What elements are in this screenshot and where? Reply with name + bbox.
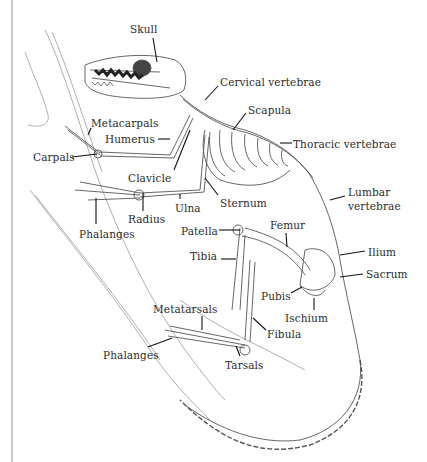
label-ischium: Ischium — [285, 312, 328, 324]
label-carpals: Carpals — [33, 151, 75, 163]
label-femur: Femur — [270, 219, 305, 231]
label-clavicle: Clavicle — [128, 172, 171, 184]
label-pubis: Pubis — [261, 290, 291, 302]
label-phalanges-fore: Phalanges — [79, 228, 135, 240]
label-skull: Skull — [130, 23, 158, 35]
label-ilium: Ilium — [368, 246, 396, 258]
label-scapula: Scapula — [248, 104, 291, 116]
label-metacarpals: Metacarpals — [91, 117, 158, 129]
label-patella: Patella — [181, 225, 218, 237]
label-radius: Radius — [128, 213, 165, 225]
label-sternum: Sternum — [220, 197, 267, 209]
label-humerus: Humerus — [105, 133, 155, 145]
label-fibula: Fibula — [267, 328, 301, 340]
label-ulna: Ulna — [175, 202, 201, 214]
label-tarsals: Tarsals — [225, 359, 264, 371]
skeleton-diagram: Skull Cervical vertebrae Scapula Thoraci… — [0, 0, 427, 462]
skull-drawing — [85, 55, 186, 98]
hindlimb-drawing — [165, 225, 335, 355]
label-metatarsals: Metatarsals — [153, 303, 217, 315]
label-sacrum: Sacrum — [366, 268, 408, 280]
label-thoracic-vertebrae: Thoracic vertebrae — [293, 138, 396, 150]
label-tibia: Tibia — [190, 250, 217, 262]
tail-drawing — [180, 360, 362, 449]
label-cervical-vertebrae: Cervical vertebrae — [220, 76, 321, 88]
label-phalanges-hind: Phalanges — [103, 349, 159, 361]
label-lumbar-vertebrae-line2: vertebrae — [348, 200, 401, 212]
label-lumbar-vertebrae-line1: Lumbar — [348, 186, 390, 198]
